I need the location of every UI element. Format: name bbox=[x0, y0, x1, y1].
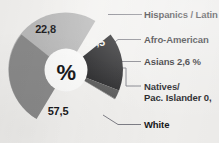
callout-label-hispanics: Hispanics / Latin bbox=[144, 9, 218, 21]
callout-label-layer: Hispanics / Latin Afro-American Asians 2… bbox=[0, 0, 219, 143]
callout-label-afro-american: Afro-American bbox=[144, 34, 209, 46]
callout-label-white: White bbox=[144, 119, 169, 131]
callout-label-natives-line1: Natives/ bbox=[144, 81, 180, 93]
donut-chart-figure: % 22,8 16,5 57,5 Hispanics / Latin Afro-… bbox=[0, 0, 219, 143]
callout-label-natives-line2: Pac. Islander 0, bbox=[144, 92, 212, 104]
callout-label-asians: Asians 2,6 % bbox=[144, 56, 201, 68]
